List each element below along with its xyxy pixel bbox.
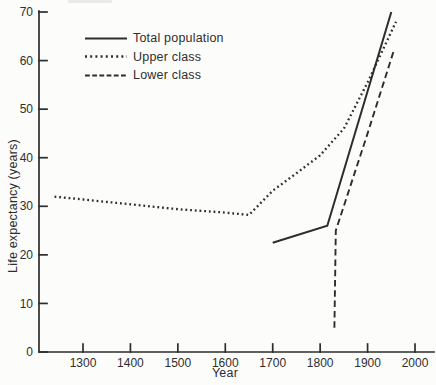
figure: 0102030405060701300140015001600170018001… — [0, 0, 436, 385]
legend-item-upper-class: Upper class — [85, 48, 224, 67]
dashed-line-swatch-icon — [85, 72, 127, 79]
svg-text:20: 20 — [20, 248, 34, 262]
legend-label-upper-class: Upper class — [133, 50, 201, 64]
svg-text:2000: 2000 — [402, 356, 429, 370]
svg-text:50: 50 — [20, 102, 34, 116]
svg-text:0: 0 — [26, 345, 33, 359]
legend-item-lower-class: Lower class — [85, 66, 224, 85]
svg-text:60: 60 — [20, 54, 34, 68]
legend-label-total-population: Total population — [133, 31, 224, 45]
x-axis-label: Year — [212, 366, 238, 380]
svg-text:1800: 1800 — [307, 356, 334, 370]
svg-text:10: 10 — [20, 297, 34, 311]
svg-text:40: 40 — [20, 151, 34, 165]
svg-text:1700: 1700 — [259, 356, 286, 370]
svg-text:1400: 1400 — [117, 356, 144, 370]
dotted-line-swatch-icon — [85, 53, 127, 60]
svg-text:70: 70 — [20, 5, 34, 19]
svg-text:1900: 1900 — [354, 356, 381, 370]
chart-legend: Total population Upper class Lower class — [85, 29, 224, 85]
y-axis-label: Life expectancy (years) — [6, 139, 20, 273]
svg-text:1300: 1300 — [70, 356, 97, 370]
svg-text:30: 30 — [20, 199, 34, 213]
solid-line-swatch-icon — [85, 35, 127, 42]
legend-item-total-population: Total population — [85, 29, 224, 48]
svg-text:1500: 1500 — [165, 356, 192, 370]
legend-label-lower-class: Lower class — [133, 68, 201, 82]
